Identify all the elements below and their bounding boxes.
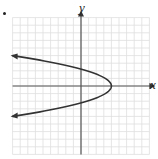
axes <box>13 16 152 155</box>
x-axis-label: x <box>150 77 156 93</box>
parabola-chart <box>0 0 158 159</box>
y-axis-label: y <box>79 0 85 16</box>
